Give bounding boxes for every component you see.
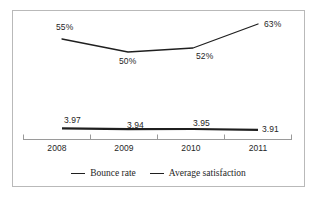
legend-label-average-satisfaction: Average satisfaction — [169, 168, 246, 178]
x-axis — [23, 135, 292, 140]
data-label-bounce-2010: 52% — [196, 51, 213, 61]
chart-figure: 55% 50% 52% 63% 3.97 3.94 3.95 3.91 2008… — [0, 0, 319, 197]
x-axis-label-2010: 2010 — [164, 143, 218, 153]
legend-line-icon — [71, 173, 85, 174]
series-line-average-satisfaction — [62, 128, 258, 129]
x-axis-label-2009: 2009 — [97, 143, 151, 153]
x-axis-label-2011: 2011 — [231, 143, 285, 153]
legend-item-bounce-rate[interactable]: Bounce rate — [71, 168, 136, 178]
data-label-satisfaction-2008: 3.97 — [64, 115, 81, 125]
data-label-bounce-2011: 63% — [264, 19, 281, 29]
chart-legend: Bounce rate Average satisfaction — [12, 165, 305, 181]
data-label-satisfaction-2009: 3.94 — [127, 120, 144, 130]
series-line-bounce-rate — [62, 24, 258, 52]
data-label-bounce-2008: 55% — [56, 22, 73, 32]
legend-label-bounce-rate: Bounce rate — [90, 168, 136, 178]
data-label-bounce-2009: 50% — [119, 56, 136, 66]
data-label-satisfaction-2010: 3.95 — [193, 118, 210, 128]
data-label-satisfaction-2011: 3.91 — [262, 124, 279, 134]
x-axis-label-2008: 2008 — [30, 143, 84, 153]
legend-item-average-satisfaction[interactable]: Average satisfaction — [150, 168, 246, 178]
legend-line-icon — [150, 173, 164, 174]
